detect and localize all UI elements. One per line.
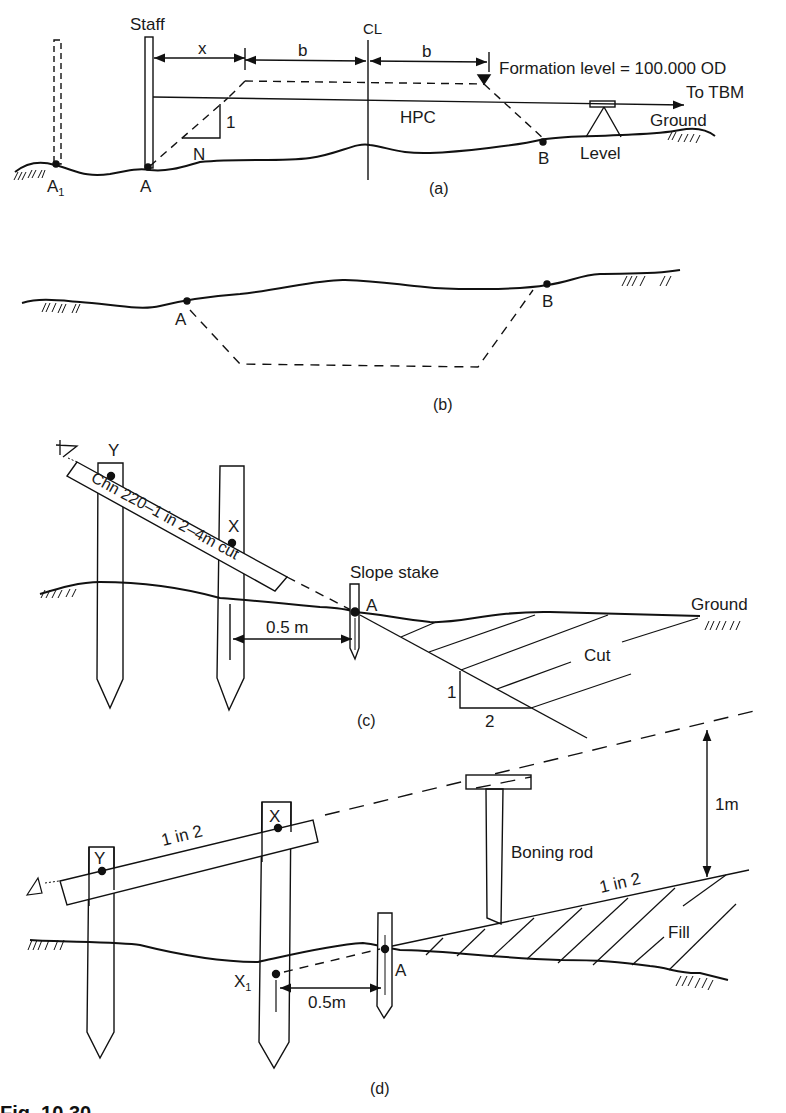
ground-line <box>22 270 680 308</box>
eye-sight-icon <box>27 878 42 895</box>
point-a-dot <box>184 298 190 304</box>
point-y-label: Y <box>108 441 119 460</box>
panel-d-label: (d) <box>370 1080 390 1097</box>
dim-b2-label: b <box>422 42 431 61</box>
dim-b1-label: b <box>298 41 307 60</box>
point-a1-dot <box>53 161 59 167</box>
slope-n-label: N <box>193 145 205 164</box>
ground-label: Ground <box>691 595 748 614</box>
cut-profile-dashed <box>190 290 533 367</box>
level-tripod-icon <box>586 107 621 137</box>
ground-hatch-icon <box>705 621 740 630</box>
cut-label: Cut <box>584 646 611 665</box>
profile-board-x <box>217 466 244 710</box>
formation-level-label: Formation level = 100.000 OD <box>499 59 726 78</box>
fill-label: Fill <box>668 923 690 942</box>
ground-hatch-icon <box>42 303 80 313</box>
slope-fill-label: 1 in 2 <box>598 869 643 897</box>
offset-label: 0.5m <box>308 993 346 1012</box>
level-label: Level <box>580 144 621 163</box>
staff-a1-dashed <box>54 40 61 164</box>
figure-caption: Fig. 10.30 <box>0 1100 91 1113</box>
point-a-label: A <box>175 310 187 329</box>
centerline-label: CL <box>363 20 382 37</box>
ground-label: Ground <box>650 111 707 130</box>
point-a-label: A <box>366 596 378 615</box>
boning-rod-label: Boning rod <box>511 843 593 862</box>
point-x1-label: X1 <box>234 972 251 993</box>
point-b-dot <box>540 139 546 145</box>
ground-hatch-icon <box>668 132 700 143</box>
ground-hatch-icon <box>622 276 671 286</box>
slope-2-label: 2 <box>485 712 494 731</box>
formation-marker-icon <box>478 75 490 84</box>
point-b-label: B <box>538 149 549 168</box>
panel-a-label: (a) <box>429 180 449 197</box>
point-a-label: A <box>140 177 152 196</box>
boning-rod-head <box>466 775 531 789</box>
point-x1-dot <box>273 971 280 978</box>
staff <box>145 37 153 168</box>
slope-1-label: 1 <box>226 113 235 132</box>
point-a-label: A <box>395 961 407 980</box>
panel-c-label: (c) <box>357 712 376 729</box>
boning-rod-stem <box>486 789 503 924</box>
panel-b <box>22 270 680 367</box>
ground-hatch-icon <box>14 170 45 180</box>
fill-slope-line <box>383 870 749 948</box>
dim-x-label: x <box>198 39 207 58</box>
point-y-label: Y <box>94 849 105 868</box>
ground-hatch-icon <box>676 976 713 990</box>
slope-stake-label: Slope stake <box>350 563 439 582</box>
height-label: 1m <box>715 795 739 814</box>
cut-slope-line <box>360 615 587 738</box>
offset-label: 0.5 m <box>266 618 309 637</box>
ground-hatch-icon <box>41 589 76 598</box>
panel-d <box>27 711 754 1068</box>
to-tbm-label: To TBM <box>686 83 744 102</box>
hpc-label: HPC <box>400 108 436 127</box>
point-b-label: B <box>542 292 553 311</box>
figure-canvas: Staff x b b CL Formation level = 100.000… <box>0 0 786 1113</box>
point-a-dot <box>351 608 359 616</box>
eye-sight-icon <box>56 440 77 457</box>
point-a-dot <box>145 164 151 170</box>
point-x-label: X <box>228 517 239 536</box>
staff-label: Staff <box>130 15 165 34</box>
point-a1-label: A1 <box>47 177 64 198</box>
point-x-label: X <box>269 807 280 826</box>
point-b-dot <box>544 281 550 287</box>
slope-top-label: 1 in 2 <box>159 821 204 849</box>
dim-b2 <box>370 61 487 62</box>
slope-1-label: 1 <box>447 683 456 702</box>
point-a-dot <box>382 946 389 953</box>
sight-line-dashed <box>325 711 754 815</box>
formation-dashed <box>150 81 545 166</box>
panel-b-label: (b) <box>433 396 453 413</box>
panel-c <box>40 440 740 738</box>
dim-b1 <box>245 60 366 61</box>
point-y-dot <box>99 868 106 875</box>
